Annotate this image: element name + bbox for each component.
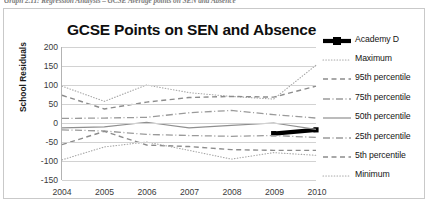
legend-item[interactable]: 50th percentile xyxy=(322,107,428,126)
legend-item[interactable]: 5th percentile xyxy=(322,145,428,164)
legend-label: 5th percentile xyxy=(355,150,406,160)
x-axis-tick: 2004 xyxy=(52,187,71,197)
series-line xyxy=(62,86,316,109)
legend-label: 50th percentile xyxy=(355,111,411,121)
y-axis-tick: -100 xyxy=(41,156,58,166)
y-axis-tick: 150 xyxy=(44,61,58,71)
gridline xyxy=(62,85,316,86)
legend-swatch-icon xyxy=(322,91,352,103)
y-axis-title: School Residuals xyxy=(18,42,28,112)
legend-item[interactable]: Academy D xyxy=(322,29,428,48)
gridline xyxy=(62,47,316,48)
chart-screenshot: Graph 2.11: Regression Analysis – GCSE A… xyxy=(0,0,428,204)
gridline xyxy=(62,66,316,67)
series-marker xyxy=(313,127,318,132)
series-line xyxy=(62,110,316,118)
plot-area: 200150100500-50-100-15020042005200620072… xyxy=(61,47,316,180)
y-axis-tick: -150 xyxy=(41,175,58,185)
legend-swatch-icon xyxy=(322,33,352,45)
legend-label: 95th percentile xyxy=(355,72,411,82)
legend-item[interactable]: 25th percentile xyxy=(322,126,428,145)
gridline xyxy=(62,142,316,143)
chart-frame: GCSE Points on SEN and Absence School Re… xyxy=(3,8,425,199)
legend-swatch-icon xyxy=(322,168,352,180)
series-line xyxy=(62,65,316,101)
legend-label: 25th percentile xyxy=(355,131,411,141)
legend-swatch-icon xyxy=(322,130,352,142)
x-axis-tick: 2005 xyxy=(95,187,114,197)
gridline xyxy=(62,161,316,162)
legend-item[interactable]: Minimum xyxy=(322,165,428,184)
chart-legend: Academy DMaximum95th percentile75th perc… xyxy=(322,29,428,184)
gridline xyxy=(62,104,316,105)
figure-caption: Graph 2.11: Regression Analysis – GCSE A… xyxy=(4,0,424,5)
y-axis-tick: 50 xyxy=(48,99,58,109)
y-axis-tick: 200 xyxy=(44,42,58,52)
x-axis-tick: 2008 xyxy=(222,187,241,197)
legend-item[interactable]: 75th percentile xyxy=(322,87,428,106)
gridline xyxy=(62,180,316,181)
y-axis-tick: 0 xyxy=(53,118,58,128)
x-axis-tick: 2006 xyxy=(137,187,156,197)
x-axis-tick: 2007 xyxy=(180,187,199,197)
legend-swatch-icon xyxy=(322,71,352,83)
x-axis-tick: 2010 xyxy=(307,187,326,197)
y-axis-tick: 100 xyxy=(44,80,58,90)
legend-label: 75th percentile xyxy=(355,92,411,102)
chart-title: GCSE Points on SEN and Absence xyxy=(59,21,324,41)
legend-label: Maximum xyxy=(355,53,392,63)
x-axis-tick: 2009 xyxy=(265,187,284,197)
legend-item[interactable]: Maximum xyxy=(322,48,428,67)
legend-swatch-icon xyxy=(322,149,352,161)
series-line xyxy=(274,130,316,134)
legend-swatch-icon xyxy=(322,52,352,64)
series-line xyxy=(62,142,316,160)
legend-label: Minimum xyxy=(355,169,390,179)
legend-swatch-icon xyxy=(322,110,352,122)
gridline xyxy=(62,123,316,124)
legend-item[interactable]: 95th percentile xyxy=(322,68,428,87)
legend-label: Academy D xyxy=(355,34,399,44)
y-axis-tick: -50 xyxy=(46,137,58,147)
